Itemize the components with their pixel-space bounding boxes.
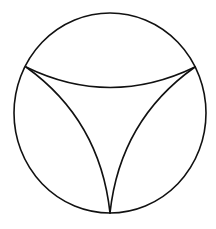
right-geodesic-arc	[110, 67, 195, 213]
ideal-triangle-diagram	[0, 0, 216, 229]
left-geodesic-arc	[26, 67, 110, 213]
boundary-circle	[14, 13, 206, 213]
top-geodesic-arc	[26, 67, 195, 88]
